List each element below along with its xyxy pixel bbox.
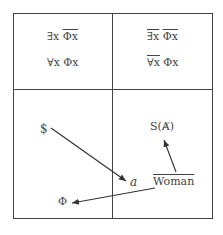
arrow-woman-to-s-barred-a [164, 140, 176, 172]
arrows-layer [0, 0, 223, 235]
arrow-subject-to-a [51, 128, 126, 181]
arrow-woman-to-phi [72, 188, 155, 203]
